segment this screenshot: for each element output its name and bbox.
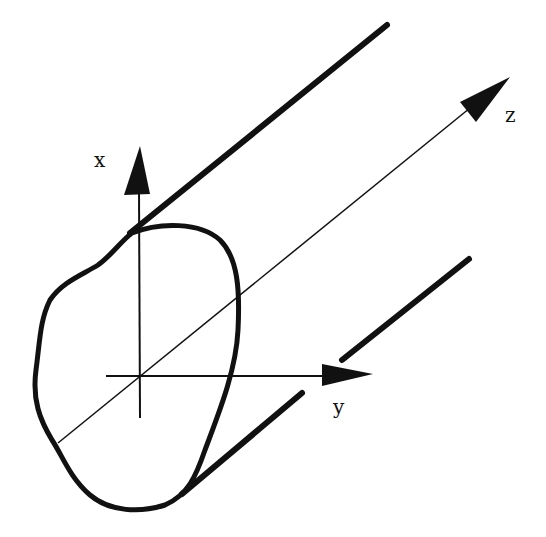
z-axis-arrowhead-icon xyxy=(460,77,510,122)
y-axis-arrowhead-icon xyxy=(322,364,373,386)
x-axis-arrowhead-icon xyxy=(124,146,150,195)
y-axis-label: y xyxy=(332,395,345,419)
x-axis-label: x xyxy=(94,148,106,172)
upper-generator-line xyxy=(130,25,387,233)
cylinder-axes-diagram: x y z xyxy=(0,0,546,537)
lower-generator-line-near xyxy=(182,393,302,494)
cross-section-outline xyxy=(35,225,239,509)
z-axis-label: z xyxy=(505,103,516,127)
x-axis-line xyxy=(139,190,140,418)
z-axis-line xyxy=(58,108,470,443)
lower-generator-line-far xyxy=(342,259,469,360)
